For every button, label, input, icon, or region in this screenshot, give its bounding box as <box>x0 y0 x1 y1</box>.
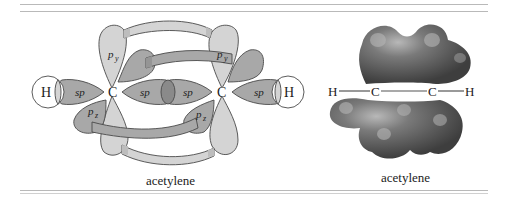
label-sp-c-left: sp <box>140 86 150 98</box>
pi-band-lower-back <box>122 145 214 165</box>
label-py-left: p <box>107 48 114 60</box>
caption-right: acetylene <box>381 170 430 186</box>
atom-h-left: H <box>41 85 51 100</box>
label-sp-c-right: sp <box>183 86 193 98</box>
atom-h-right: H <box>284 85 294 100</box>
caption-left: acetylene <box>146 173 195 189</box>
pi-band-upper-back <box>124 21 212 38</box>
atom-c-left: C <box>108 85 117 100</box>
r-atom-c-left: C <box>371 84 380 99</box>
label-py-right: p <box>216 48 223 60</box>
label-py-right-sub: y <box>223 54 228 63</box>
r-atom-c-right: C <box>428 84 437 99</box>
label-pz-right: p <box>195 108 202 120</box>
label-pz-left: p <box>87 105 94 117</box>
r-atom-h-right: H <box>465 84 474 99</box>
label-sp-h-left: sp <box>75 86 85 98</box>
right-pi-cloud-surface <box>330 24 471 158</box>
label-sp-h-right: sp <box>254 86 264 98</box>
label-py-left-sub: y <box>114 54 119 63</box>
r-atom-h-left: H <box>328 84 337 99</box>
sp-sp-overlap <box>161 80 175 104</box>
atom-c-right: C <box>217 85 226 100</box>
orbital-diagram: H C C H sp sp sp sp p y p y p z p z H <box>0 0 506 197</box>
